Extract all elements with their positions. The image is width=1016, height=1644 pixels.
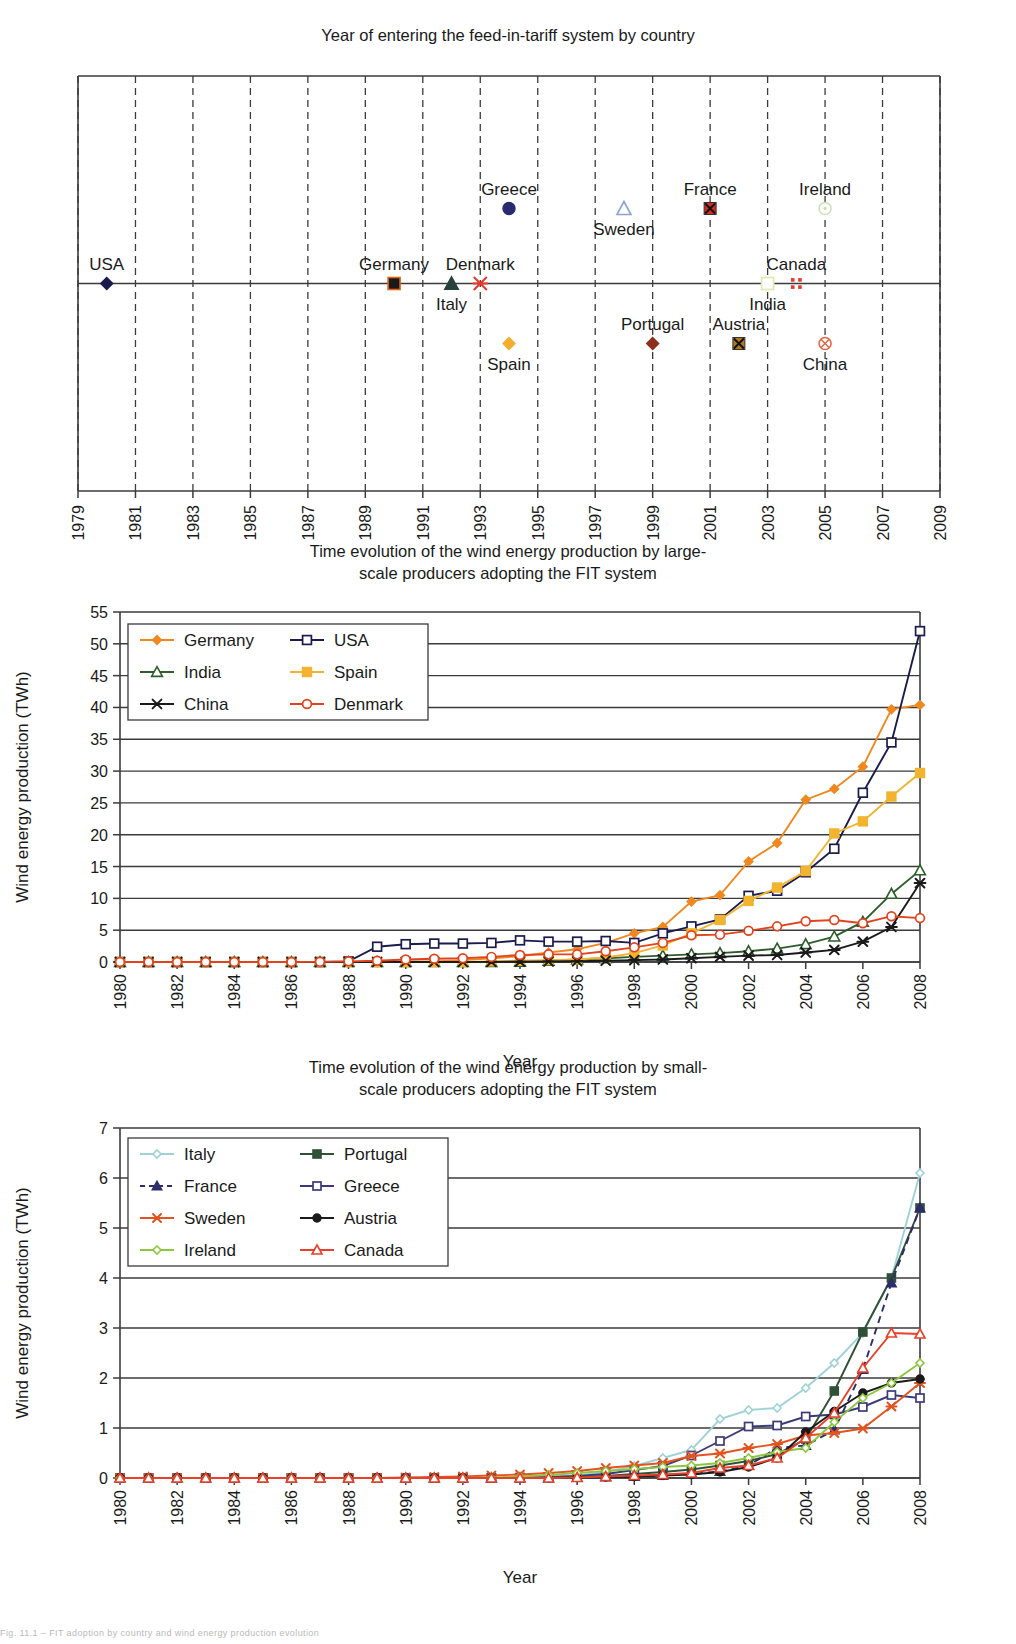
svg2-xtick-label: 1996	[569, 974, 586, 1010]
chart1-xtick-label: 2005	[817, 505, 834, 541]
chart1-point-label: Sweden	[593, 220, 654, 239]
series-line	[120, 773, 920, 962]
chart-1-svg: 1979198119831985198719891991199319951997…	[0, 46, 1016, 546]
circle-open-marker	[287, 958, 296, 967]
circle-open-marker	[344, 957, 353, 966]
svg2-xtick-label: 1990	[398, 974, 415, 1010]
square-open-marker	[916, 1394, 924, 1402]
svg2-xtick-label: 1994	[512, 974, 529, 1010]
chart1-xtick-label: 2003	[760, 505, 777, 541]
chart1-xtick-label: 1981	[127, 505, 144, 541]
square-open-marker	[858, 788, 867, 797]
svg3-ytick-label: 6	[99, 1170, 108, 1187]
circle-open-marker	[144, 958, 153, 967]
svg2-ytick-label: 30	[90, 763, 108, 780]
square-marker	[388, 278, 400, 290]
circle-open-marker	[401, 955, 410, 964]
chart-3-block: Time evolution of the wind energy produc…	[0, 1056, 1016, 1600]
svg2-xtick-label: 2000	[683, 974, 700, 1010]
diamond-open-marker	[916, 1169, 924, 1177]
svg2-ytick-label: 35	[90, 731, 108, 748]
series-line	[120, 705, 920, 962]
chart-2-title-line2: scale producers adopting the FIT system	[0, 562, 1016, 584]
svg2-xtick-label: 1992	[455, 974, 472, 1010]
triangle-open-marker	[829, 931, 840, 941]
svg3-xtick-label: 1984	[226, 1490, 243, 1526]
chart1-xtick-label: 1987	[300, 505, 317, 541]
svg3-xtick-label: 2006	[855, 1490, 872, 1526]
square-open-marker	[830, 844, 839, 853]
svg2-legend: GermanyUSAIndiaSpainChinaDenmark	[128, 624, 428, 720]
svg3-ytick-label: 2	[99, 1370, 108, 1387]
series-line	[120, 1383, 920, 1478]
svg3-xtick-label: 2008	[912, 1490, 929, 1526]
chart1-point-label: Portugal	[621, 315, 684, 334]
chart1-xtick-label: 1997	[587, 505, 604, 541]
chart1-point-label: Denmark	[446, 255, 515, 274]
square-marker	[858, 817, 867, 826]
square-open-marker	[859, 1403, 867, 1411]
chart1-point-label: Germany	[359, 255, 429, 274]
x-marker	[715, 1450, 725, 1458]
svg2-ytick-label: 0	[99, 954, 108, 971]
circle-open-marker	[516, 951, 525, 960]
chart-2-title-line1: Time evolution of the wind energy produc…	[0, 540, 1016, 562]
legend-label: Italy	[184, 1145, 216, 1164]
diamond-marker	[647, 338, 659, 350]
square-marker	[773, 883, 782, 892]
square-open-marker	[313, 1182, 321, 1190]
circle-open-marker	[373, 956, 382, 965]
square-open-marker	[373, 942, 382, 951]
svg3-ytick-label: 5	[99, 1220, 108, 1237]
square-open-marker	[887, 1391, 895, 1399]
x-marker	[857, 937, 868, 946]
chart1-point-label: USA	[89, 255, 125, 274]
circle-open-marker	[658, 939, 667, 948]
svg2-yaxis-title: Wind energy production (TWh)	[13, 671, 32, 902]
legend-label: Austria	[344, 1209, 397, 1228]
square-marker	[859, 1328, 867, 1336]
circle-open-marker	[316, 957, 325, 966]
square-marker	[801, 867, 810, 876]
legend-label: India	[184, 663, 221, 682]
svg2-xtick-label: 2006	[855, 974, 872, 1010]
circle-open-marker	[801, 917, 810, 926]
chart1-point-sweden	[617, 202, 631, 215]
legend-label: Portugal	[344, 1145, 407, 1164]
svg2-ytick-label: 10	[90, 890, 108, 907]
svg2-xtick-label: 2004	[798, 974, 815, 1010]
square-marker	[716, 916, 725, 925]
square-open-marker	[458, 939, 467, 948]
chart1-point-label: Greece	[481, 180, 537, 199]
diamond-marker	[887, 705, 896, 714]
square-open-marker	[773, 1422, 781, 1430]
svg3-xtick-label: 1994	[512, 1490, 529, 1526]
legend-label: Spain	[334, 663, 377, 682]
svg3-xtick-label: 1998	[626, 1490, 643, 1526]
diamond-open-marker	[745, 1406, 753, 1414]
chart-2-svg: 0510152025303540455055198019821984198619…	[0, 584, 1016, 1084]
chart1-point-france	[704, 203, 716, 215]
chart1-point-label: China	[803, 355, 848, 374]
legend-label: Greece	[344, 1177, 400, 1196]
svg3-xtick-label: 1986	[283, 1490, 300, 1526]
svg2-xtick-label: 2002	[741, 974, 758, 1010]
circle-marker	[313, 1214, 321, 1222]
chart1-point-denmark	[473, 278, 487, 290]
svg3-xtick-label: 1980	[112, 1490, 129, 1526]
svg3-legend: ItalyPortugalFranceGreeceSwedenAustriaIr…	[128, 1138, 448, 1266]
square-open-marker	[916, 627, 925, 636]
svg3-ytick-label: 1	[99, 1420, 108, 1437]
svg3-xtick-label: 2000	[683, 1490, 700, 1526]
square-marker	[916, 769, 925, 778]
svg2-xtick-label: 1982	[169, 974, 186, 1010]
svg3-xtick-label: 1990	[398, 1490, 415, 1526]
circle-open-marker	[687, 931, 696, 940]
square-open-marker	[601, 937, 610, 946]
x-marker	[473, 278, 487, 290]
svg2-ytick-label: 15	[90, 859, 108, 876]
svg3-ytick-label: 0	[99, 1470, 108, 1487]
chart1-xtick-label: 1979	[70, 505, 87, 541]
chart1-point-portugal	[647, 338, 659, 350]
square-open-marker	[303, 636, 312, 645]
